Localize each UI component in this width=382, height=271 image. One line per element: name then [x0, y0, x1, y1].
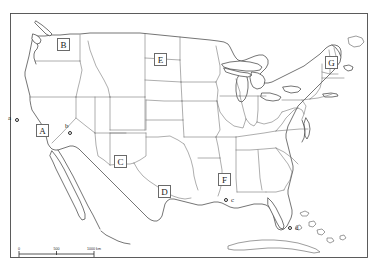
- bahamas-island-5: [340, 235, 346, 240]
- state-label-c[interactable]: C: [114, 155, 127, 168]
- state-label-f[interactable]: F: [218, 173, 231, 186]
- state-label-b[interactable]: B: [57, 38, 70, 51]
- city-marker-b-label: b: [65, 123, 69, 130]
- map-container: 0 500 1000 km B E G A C D F a b c d: [0, 0, 382, 271]
- bahamas-island-3: [317, 229, 325, 235]
- vancouver-island: [35, 21, 52, 36]
- delmarva-peninsula: [304, 118, 310, 139]
- scale-bar: 0 500 1000 km: [18, 247, 101, 257]
- cape-cod: [344, 65, 353, 71]
- city-marker-b-dot[interactable]: [68, 131, 72, 135]
- bahamas-island-4: [327, 238, 334, 243]
- mexico-mainland-coast: [101, 231, 130, 244]
- city-marker-c-label: c: [231, 197, 234, 204]
- scale-mid-label: 500: [54, 247, 60, 251]
- state-label-g[interactable]: G: [325, 56, 338, 69]
- baja-california: [50, 151, 85, 220]
- city-marker-a-label: a: [8, 115, 11, 122]
- scale-left-label: 0: [18, 247, 20, 251]
- border-pa-nj-md: [302, 100, 306, 114]
- state-label-a[interactable]: A: [36, 124, 49, 137]
- cuba-island: [228, 240, 320, 253]
- nova-scotia: [348, 36, 364, 47]
- city-marker-c-dot[interactable]: [224, 198, 228, 202]
- city-marker-d-dot[interactable]: [288, 226, 292, 230]
- state-label-d[interactable]: D: [158, 185, 171, 198]
- state-label-e[interactable]: E: [154, 53, 167, 66]
- bahamas-island-1: [300, 211, 309, 216]
- bahamas-island-2: [309, 221, 316, 227]
- scale-right-label: 1000 km: [87, 247, 101, 251]
- city-marker-a-dot[interactable]: [15, 118, 19, 122]
- city-marker-d-label: d: [295, 225, 299, 232]
